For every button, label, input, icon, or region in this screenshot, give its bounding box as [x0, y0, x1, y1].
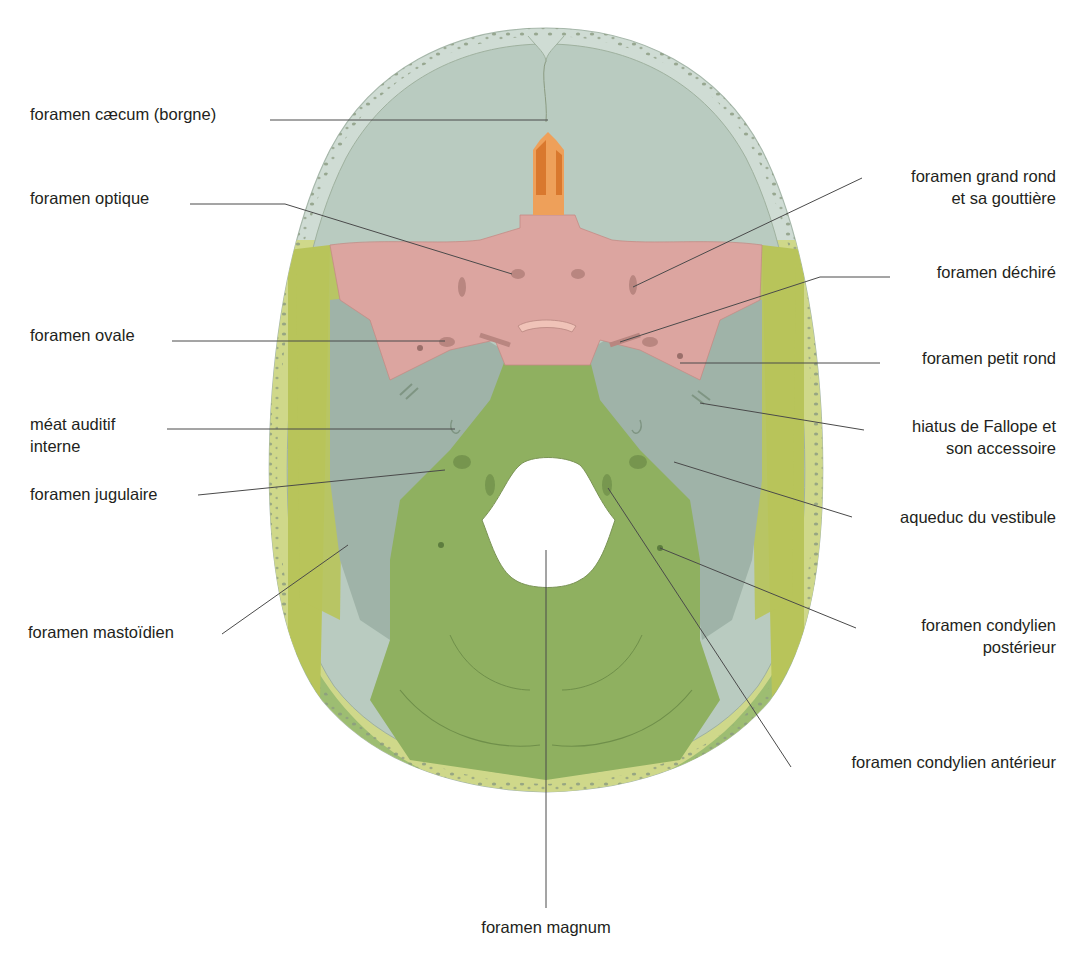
- label-text: foramen déchiré: [937, 261, 1056, 283]
- label-foramen-grand-rond: foramen grand rond et sa gouttière: [911, 165, 1056, 209]
- label-foramen-ovale: foramen ovale: [30, 324, 135, 346]
- label-text: foramen grand rond: [911, 165, 1056, 187]
- label-text: son accessoire: [912, 437, 1056, 459]
- label-hiatus-de-fallope: hiatus de Fallope et son accessoire: [912, 415, 1056, 459]
- label-text: foramen condylien: [921, 614, 1056, 636]
- label-text: postérieur: [921, 636, 1056, 658]
- label-text: foramen petit rond: [922, 347, 1056, 369]
- label-foramen-optique: foramen optique: [30, 187, 149, 209]
- label-text: interne: [30, 435, 115, 457]
- label-text: foramen jugulaire: [30, 483, 158, 505]
- label-text: foramen condylien antérieur: [851, 751, 1056, 773]
- label-foramen-condylien-anterieur: foramen condylien antérieur: [851, 751, 1056, 773]
- label-foramen-caecum: foramen cæcum (borgne): [30, 103, 216, 125]
- label-text: hiatus de Fallope et: [912, 415, 1056, 437]
- skull-base-diagram: [0, 0, 1079, 961]
- label-text: foramen magnum: [446, 916, 646, 938]
- label-foramen-petit-rond: foramen petit rond: [922, 347, 1056, 369]
- label-text: foramen optique: [30, 187, 149, 209]
- label-text: aqueduc du vestibule: [900, 506, 1056, 528]
- label-text: et sa gouttière: [911, 187, 1056, 209]
- label-foramen-mastoidien: foramen mastoïdien: [28, 621, 174, 643]
- label-text: méat auditif: [30, 413, 115, 435]
- label-foramen-condylien-posterieur: foramen condylien postérieur: [921, 614, 1056, 658]
- label-text: foramen ovale: [30, 324, 135, 346]
- label-aqueduc-du-vestibule: aqueduc du vestibule: [900, 506, 1056, 528]
- label-foramen-jugulaire: foramen jugulaire: [30, 483, 158, 505]
- label-meat-auditif-interne: méat auditif interne: [30, 413, 115, 457]
- label-foramen-magnum: foramen magnum: [446, 916, 646, 938]
- label-text: foramen cæcum (borgne): [30, 103, 216, 125]
- label-foramen-dechire: foramen déchiré: [937, 261, 1056, 283]
- label-text: foramen mastoïdien: [28, 621, 174, 643]
